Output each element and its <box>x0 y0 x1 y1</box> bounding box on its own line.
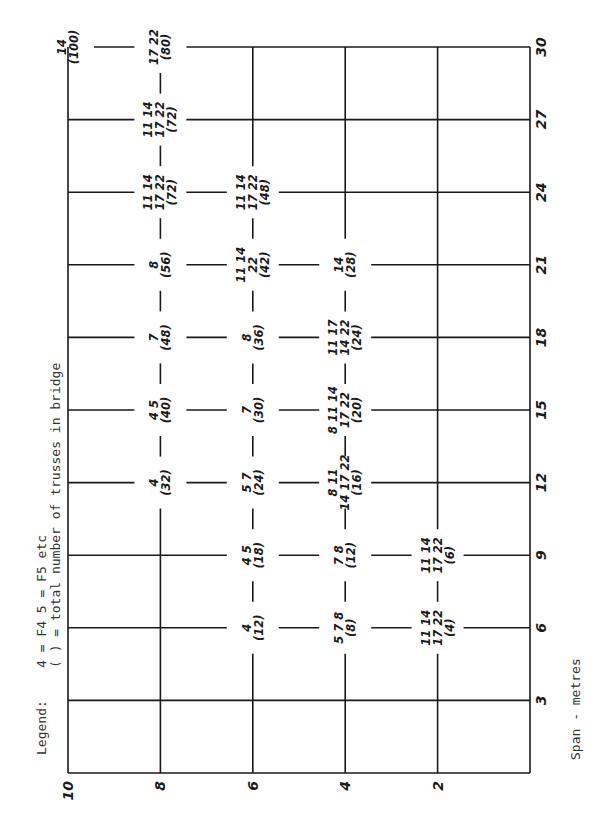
data-label-span-18-value-8: 7(48) <box>147 324 173 351</box>
truss-total-label: (12) <box>252 615 266 642</box>
data-label-span-12-value-8: 4(32) <box>147 469 173 496</box>
data-label-span-6-value-4: 5 7 8(8) <box>332 612 358 644</box>
data-label-span-30-value-8: 17 22(80) <box>147 29 173 65</box>
x-tick-label-6: 6 <box>533 623 549 633</box>
x-tick-label-21: 21 <box>533 255 549 274</box>
data-label-span-24-value-8: 11 1417 22(72) <box>141 174 179 210</box>
truss-total-label: (48) <box>258 179 272 206</box>
truss-total-label: (72) <box>165 106 179 133</box>
truss-span-chart: 36912151821242730246810 14(100)17 22(80)… <box>0 0 596 830</box>
x-tick-label-12: 12 <box>533 473 549 492</box>
x-tick-label-18: 18 <box>533 327 549 347</box>
truss-total-label: (28) <box>344 252 358 279</box>
y-tick-label-4: 4 <box>337 781 353 792</box>
data-label-span-18-value-6: 8(36) <box>240 324 266 351</box>
axis-ticks: 36912151821242730246810 <box>60 37 549 800</box>
data-label-span-21-value-8: 8(56) <box>147 252 173 279</box>
data-label-span-18-value-4: 11 1714 22(24) <box>326 319 364 355</box>
truss-total-label: (4) <box>443 619 457 638</box>
truss-total-label: (100) <box>67 30 81 65</box>
truss-total-label: (12) <box>344 542 358 569</box>
truss-total-label: (36) <box>252 324 266 351</box>
legend-line-2: ( ) = total number of trusses in bridge <box>48 363 63 668</box>
truss-total-label: (16) <box>350 469 364 496</box>
y-tick-label-2: 2 <box>430 781 446 791</box>
truss-total-label: (48) <box>159 324 173 351</box>
x-tick-label-27: 27 <box>533 110 549 130</box>
legend-line-1: 4 = F4 5 = F5 etc <box>34 535 49 668</box>
data-label-span-12-value-4: 8 1114 17 22(16) <box>326 455 364 511</box>
x-tick-label-24: 24 <box>533 182 549 201</box>
data-label-span-15-value-8: 4 5(40) <box>147 397 173 424</box>
data-label-span-9-value-4: 7 8(12) <box>332 542 358 569</box>
truss-total-label: (30) <box>252 397 266 424</box>
truss-total-label: (80) <box>159 34 173 61</box>
truss-total-label: (8) <box>344 619 358 638</box>
truss-total-label: (6) <box>443 546 457 565</box>
data-label-span-6-value-2: 11 1417 22(4) <box>419 610 457 646</box>
data-label-span-24-value-6: 11 1417 22(48) <box>234 174 272 210</box>
data-label-span-9-value-2: 11 1417 22(6) <box>419 537 457 573</box>
data-label-span-12-value-6: 5 7(24) <box>240 469 266 496</box>
truss-total-label: (32) <box>159 469 173 496</box>
data-label-span-9-value-6: 4 5(18) <box>240 542 266 569</box>
y-tick-label-6: 6 <box>245 781 261 791</box>
data-label-span-27-value-8: 11 1417 22(72) <box>141 102 179 138</box>
y-tick-label-10: 10 <box>60 781 76 801</box>
x-tick-label-30: 30 <box>533 37 549 57</box>
truss-total-label: (24) <box>252 469 266 496</box>
y-tick-label-8: 8 <box>152 781 168 791</box>
x-tick-label-15: 15 <box>533 400 549 420</box>
truss-total-label: (42) <box>258 252 272 279</box>
truss-total-label: (20) <box>350 397 364 424</box>
legend-key: Legend: <box>34 700 49 755</box>
truss-total-label: (40) <box>159 397 173 424</box>
data-label-span-21-value-4: 14(28) <box>332 252 358 279</box>
data-label-span-30-value-10: 14(100) <box>55 30 81 65</box>
legend: Legend: 4 = F4 5 = F5 etc ( ) = total nu… <box>34 363 63 755</box>
x-tick-label-9: 9 <box>533 550 549 560</box>
data-label-span-15-value-4: 8 11 1417 22(20) <box>326 386 364 434</box>
data-label-span-6-value-6: 4(12) <box>240 615 266 642</box>
grid <box>68 47 530 773</box>
truss-total-label: (18) <box>252 542 266 569</box>
x-tick-label-3: 3 <box>533 696 549 706</box>
truss-total-label: (56) <box>159 252 173 279</box>
truss-total-label: (24) <box>350 324 364 351</box>
data-label-span-21-value-6: 11 1422(42) <box>234 247 272 283</box>
data-label-span-15-value-6: 7(30) <box>240 397 266 424</box>
truss-total-label: (72) <box>165 179 179 206</box>
x-axis-label: Span - metres <box>568 658 583 760</box>
